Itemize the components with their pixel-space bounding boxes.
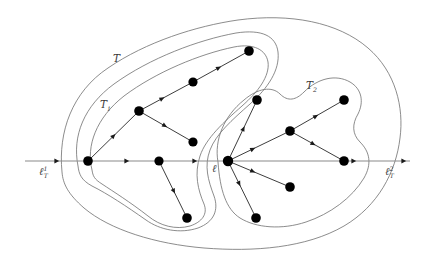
tree-edge-n-root-to-r-mid <box>228 131 290 161</box>
tree-node-r-axis <box>339 156 349 166</box>
label-tree-T-base: T <box>113 52 121 64</box>
tree-node-r-up <box>252 95 262 105</box>
axis-direction-arrow-3 <box>351 159 356 164</box>
tree-node-r-far <box>339 95 349 105</box>
tree-node-l-up3 <box>244 46 254 56</box>
edge-arrowhead-10 <box>236 181 242 188</box>
tree-edge-r-mid-to-r-axis <box>290 131 344 161</box>
label-subtree-T2-sub: 2 <box>312 86 317 93</box>
axis-direction-arrow-1 <box>124 159 129 164</box>
tree-node-l-hub <box>83 156 93 166</box>
edge-arrowhead-2 <box>215 64 222 71</box>
axis-direction-arrow-2 <box>192 159 197 164</box>
tree-node-r-mid <box>285 126 295 136</box>
label-subtree-T1: T1 <box>100 98 111 112</box>
label-subtree-T2: T2 <box>306 79 317 93</box>
tree-partition-diagram: TT1T2ℓℓ1Tℓ2T <box>0 0 426 260</box>
tree-node-l-up2 <box>188 77 197 86</box>
tree-edge-l-up1-to-l-up2 <box>139 82 193 111</box>
tree-node-n-root <box>223 156 233 166</box>
edge-arrowhead-1 <box>159 95 166 102</box>
tree-node-l-mid <box>154 156 163 165</box>
label-tree-T: T <box>113 52 121 64</box>
tree-node-r-low2 <box>251 213 261 223</box>
label-line-ell: ℓ <box>212 162 217 174</box>
tree-nodes-layer <box>83 46 349 223</box>
label-line-ell-base: ℓ <box>212 162 217 174</box>
axis-direction-arrow-0 <box>54 159 59 164</box>
tree-node-l-right <box>188 137 197 146</box>
edge-arrowhead-9 <box>250 168 257 174</box>
edge-arrowhead-5 <box>240 125 246 132</box>
label-line-ell-T-2-sub: T <box>390 172 395 179</box>
edge-arrowhead-7 <box>313 113 320 120</box>
axis-direction-arrow-4 <box>401 159 406 164</box>
tree-node-l-down <box>182 213 192 223</box>
label-line-ell-T-1: ℓ1T <box>39 165 49 179</box>
edge-arrowhead-8 <box>310 141 317 148</box>
label-line-ell-T-2: ℓ2T <box>385 165 395 179</box>
tree-node-r-low1 <box>285 182 295 192</box>
edge-arrowhead-3 <box>162 123 169 130</box>
label-line-ell-T-1-sub: T <box>44 172 49 179</box>
figure-container: TT1T2ℓℓ1Tℓ2T <box>0 0 426 260</box>
edge-arrowhead-4 <box>171 188 177 195</box>
tree-node-l-up1 <box>134 106 144 116</box>
label-subtree-T1-sub: 1 <box>107 105 111 112</box>
edge-arrowhead-6 <box>250 146 257 152</box>
